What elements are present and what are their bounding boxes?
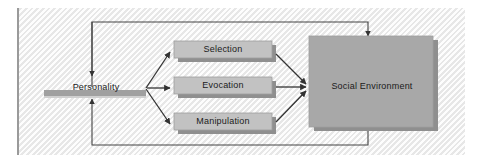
node-label-personality: Personality — [48, 83, 144, 92]
node-label-evocation: Evocation — [174, 81, 272, 90]
edge-selection-to-social — [276, 54, 306, 84]
node-label-manipulation: Manipulation — [174, 117, 272, 126]
node-label-selection: Selection — [174, 45, 272, 54]
edge-personality-to-selection — [146, 52, 170, 88]
node-label-social-environment: Social Environment — [310, 82, 434, 91]
edge-personality-to-manipulation — [146, 89, 170, 124]
edge-manipulation-to-social — [276, 91, 306, 122]
diagram-figure: Personality Selection Evocation Manipula… — [0, 0, 482, 162]
